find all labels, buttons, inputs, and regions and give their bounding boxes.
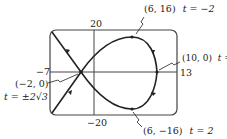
leader-line (136, 17, 144, 34)
point-self-intersection (79, 70, 83, 74)
xmin-label: −7 (36, 67, 50, 77)
point-right (155, 70, 158, 73)
annotation-right: (10, 0) t = 0 (182, 54, 227, 63)
ymin-label: −20 (87, 118, 107, 128)
xmax-label: 13 (180, 68, 192, 78)
graph-canvas (0, 0, 227, 139)
annotation-point: (10, 0) (182, 53, 212, 63)
point-bottom (130, 107, 133, 110)
annotation-bottom: (6, −16) t = 2 (143, 126, 213, 136)
annotation-param: t = −2 (183, 3, 215, 14)
annotation-param: t = 0 (218, 53, 227, 63)
annotation-left-param: t = ±2√3 (4, 92, 48, 102)
annotation-point: (6, 16) (144, 3, 176, 14)
ymax-label: 20 (90, 19, 102, 29)
annotation-param: t = 2 (190, 125, 214, 136)
point-top (130, 35, 133, 38)
annotation-top: (6, 16) t = −2 (144, 4, 214, 14)
leader-line (133, 112, 142, 127)
annotation-point: (6, −16) (143, 125, 183, 136)
annotation-left-point: (−2, 0) (15, 79, 49, 89)
